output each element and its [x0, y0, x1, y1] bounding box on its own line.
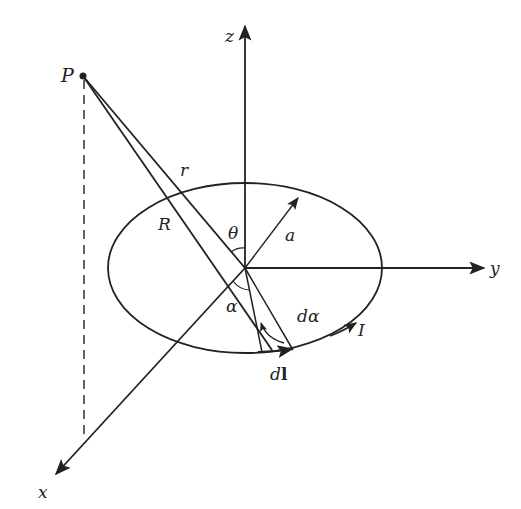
- point-P: [80, 73, 87, 80]
- dl-label-d: d: [270, 364, 281, 384]
- diagram-graphics: [0, 0, 521, 509]
- current-arrow: [330, 323, 356, 336]
- current-label: I: [358, 322, 365, 339]
- current-loop-diagram: z y x P r R θ a α dα I dl: [0, 0, 521, 509]
- dl-label-l: l: [281, 364, 287, 384]
- x-axis-label: x: [38, 484, 48, 501]
- R-label: R: [158, 216, 171, 233]
- point-P-label: P: [61, 66, 74, 85]
- r-vector: [83, 76, 245, 268]
- alpha-line-2: [245, 268, 293, 350]
- dl-label: dl: [270, 366, 287, 383]
- z-axis-label: z: [225, 28, 234, 45]
- alpha-line-1: [245, 268, 262, 352]
- theta-label: θ: [228, 225, 238, 242]
- R-vector: [83, 76, 272, 350]
- y-axis-label: y: [490, 260, 500, 277]
- theta-arc: [231, 248, 245, 252]
- r-label: r: [180, 162, 188, 179]
- dalpha-label: dα: [297, 308, 319, 325]
- a-label: a: [285, 227, 295, 244]
- alpha-arc: [233, 281, 249, 290]
- dl-arrow: [258, 349, 292, 352]
- alpha-label: α: [226, 298, 237, 315]
